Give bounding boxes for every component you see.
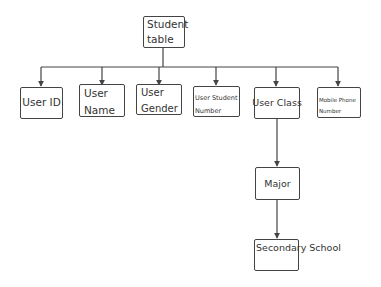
node-student-table: Student table bbox=[143, 16, 185, 48]
node-secondary-school: Secondary School bbox=[254, 239, 299, 271]
node-major: Major bbox=[255, 167, 300, 200]
node-user-id: User ID bbox=[20, 87, 63, 119]
node-user-gender: User Gender bbox=[136, 84, 182, 115]
node-mobile-phone-number: Mobile Phone Number bbox=[317, 87, 361, 118]
node-user-class: User Class bbox=[254, 87, 300, 119]
diagram-canvas: Student table User ID User Name User Gen… bbox=[0, 0, 381, 287]
node-user-student-number: User Student Number bbox=[193, 86, 240, 117]
node-user-name: User Name bbox=[79, 84, 125, 117]
